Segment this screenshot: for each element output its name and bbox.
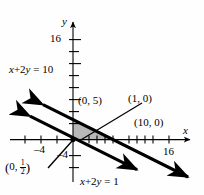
graph-figure: x y 16 –4 –4 16 x+2y = 10 x+2y = 1 (0, 5… — [0, 0, 204, 195]
origin-point — [70, 137, 75, 142]
eq1-y: y — [97, 175, 102, 187]
y-tick-label-neg4: –4 — [57, 149, 68, 160]
point-label-1-0: (1, 0) — [128, 93, 152, 104]
x-axis-label: x — [183, 125, 188, 136]
line-equation-label-1: x+2y = 1 — [80, 176, 119, 187]
graph-canvas — [0, 0, 204, 195]
one-half-fraction: 12 — [20, 159, 26, 177]
half-close-paren: ) — [26, 160, 30, 175]
leader-line-1-0 — [79, 103, 142, 141]
eq10-rhs: 10 — [42, 63, 53, 75]
line-equation-label-10: x+2y = 10 — [9, 64, 53, 75]
y-tick-label-16: 16 — [50, 33, 61, 44]
eq1-equals: = — [104, 175, 110, 187]
point-label-0-5: (0, 5) — [78, 95, 102, 106]
fraction-denominator: 2 — [20, 168, 26, 176]
eq10-y: y — [26, 63, 31, 75]
x-tick-label-neg4: –4 — [34, 144, 45, 155]
eq1-rhs: 1 — [113, 175, 119, 187]
eq10-equals: = — [33, 63, 39, 75]
point-label-10-0: (10, 0) — [134, 117, 163, 128]
half-x-part: 0, — [9, 160, 17, 172]
x-tick-label-16: 16 — [163, 146, 174, 157]
line-x-plus-2y-equals-10 — [43, 105, 188, 177]
point-label-0-half: (0, 12) — [5, 159, 30, 177]
y-axis-label: y — [62, 16, 67, 27]
